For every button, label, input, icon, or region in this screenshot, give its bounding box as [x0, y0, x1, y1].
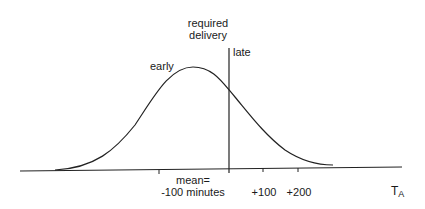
early-label: early	[150, 60, 174, 72]
x-axis	[20, 167, 402, 171]
axis-label-ta: TA	[391, 185, 404, 200]
required-delivery-label: required delivery	[188, 17, 228, 41]
tick-label-100: +100	[252, 186, 277, 198]
tick-label-200: +200	[287, 186, 312, 198]
mean-label: mean= -100 minutes	[161, 174, 225, 198]
normal-curve	[55, 67, 333, 170]
late-label: late	[233, 46, 251, 58]
